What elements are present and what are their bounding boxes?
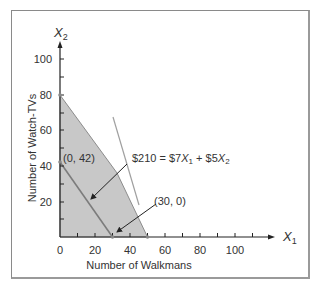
y-tick-label: 40 <box>40 160 52 172</box>
x-tick-label: 100 <box>226 244 244 256</box>
x-axis-arrow-icon <box>268 235 275 240</box>
y-tick-label: 60 <box>40 124 52 136</box>
y-axis-title: Number of Watch-TVs <box>26 93 38 202</box>
chart-plot: 0 20 40 60 80 100 20 40 60 80 100 X2 X1 … <box>0 0 321 288</box>
annotation-0-42: (0, 42) <box>63 152 95 164</box>
y-tick-label: 20 <box>40 196 52 208</box>
x-axis-symbol: X1 <box>282 229 297 246</box>
point-30-0 <box>111 235 115 239</box>
x-tick-label: 20 <box>89 244 101 256</box>
point-0-80 <box>58 93 62 97</box>
y-axis-arrow-icon <box>58 41 63 48</box>
y-tick-label: 80 <box>40 89 52 101</box>
x-tick-label: 0 <box>57 244 63 256</box>
y-axis-symbol: X2 <box>53 25 68 42</box>
x-tick-label: 80 <box>194 244 206 256</box>
annotation-30-0: (30, 0) <box>154 195 186 207</box>
x-tick-labels: 0 20 40 60 80 100 <box>57 244 244 256</box>
x-tick-label: 40 <box>124 244 136 256</box>
point-50-0 <box>146 235 150 239</box>
point-0-42 <box>58 160 62 164</box>
y-tick-label: 100 <box>34 53 52 65</box>
x-axis-title: Number of Walkmans <box>86 259 192 271</box>
x-tick-label: 60 <box>159 244 171 256</box>
feasible-region <box>60 95 148 237</box>
annotation-profit-equation: $210 = $7X1 + $5X2 <box>132 152 230 166</box>
